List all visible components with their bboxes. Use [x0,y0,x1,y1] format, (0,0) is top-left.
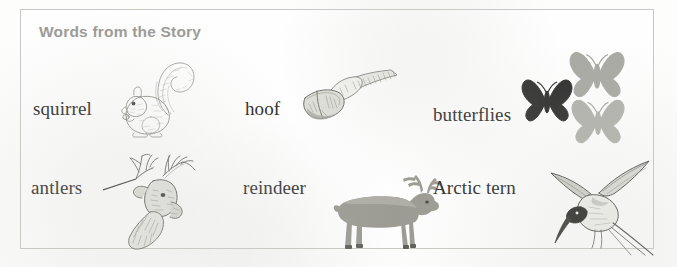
hoof-illustration [293,58,403,128]
antlers-illustration [103,150,223,262]
vocab-word-label: hoof [245,98,280,120]
vocab-word-label: antlers [31,177,82,199]
leader-line [103,179,136,190]
vocab-word-label: squirrel [33,98,92,120]
worksheet-page: Words from the Story squirrel [0,0,677,267]
squirrel-illustration [107,45,199,145]
panel-title: Words from the Story [39,23,201,41]
words-from-the-story-panel: Words from the Story squirrel [20,9,654,249]
arctic-tern-illustration [537,153,657,258]
butterflies-illustration [519,46,637,151]
vocab-word-label: butterflies [433,104,511,126]
vocab-word-label: Arctic tern [433,177,516,199]
vocab-word-label: reindeer [243,177,306,199]
reindeer-illustration [329,173,441,263]
